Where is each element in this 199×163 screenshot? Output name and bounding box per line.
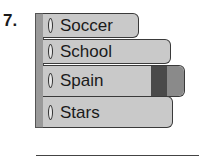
- book-school: School: [43, 39, 171, 64]
- question-number: 7.: [3, 11, 17, 31]
- book-stars: Stars: [43, 96, 173, 128]
- book-spain: Spain: [43, 65, 185, 97]
- color-band-mid: [167, 66, 184, 96]
- oval-icon: [48, 44, 53, 59]
- oval-icon: [48, 18, 53, 33]
- book-label: Spain: [60, 70, 103, 92]
- color-band-dark: [151, 66, 167, 96]
- answer-line: [36, 155, 199, 156]
- book-soccer: Soccer: [43, 13, 139, 38]
- book-label: Soccer: [60, 15, 113, 37]
- oval-icon: [48, 105, 53, 120]
- book-label: School: [60, 41, 112, 63]
- oval-icon: [48, 73, 53, 88]
- book-label: Stars: [60, 102, 100, 124]
